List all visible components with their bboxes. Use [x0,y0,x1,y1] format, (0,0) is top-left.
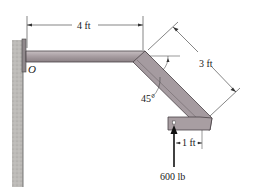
arrowhead-icon [173,27,179,32]
arrowhead-icon [167,58,170,62]
dimension-1ft: 1 ft [176,130,202,149]
horizontal-member [26,51,150,62]
bracket-diagram: 4 ft 3 ft 45° 1 ft 600 lb O [0,0,254,187]
label-3ft: 3 ft [199,58,213,69]
label-45deg: 45° [141,93,155,104]
label-4ft: 4 ft [77,20,91,31]
arrowhead-icon [27,24,32,27]
label-1ft: 1 ft [182,137,196,148]
force-arrow: 600 lb [160,125,185,182]
load-point-icon [173,121,176,124]
arrowhead-icon [231,88,237,93]
arrowhead-icon [198,142,202,144]
arrowhead-icon [176,142,180,144]
wall [12,40,23,187]
arrowhead-icon [138,24,143,27]
label-600lb: 600 lb [160,171,185,182]
label-origin: O [28,63,36,75]
dimension-4ft: 4 ft [27,16,143,50]
